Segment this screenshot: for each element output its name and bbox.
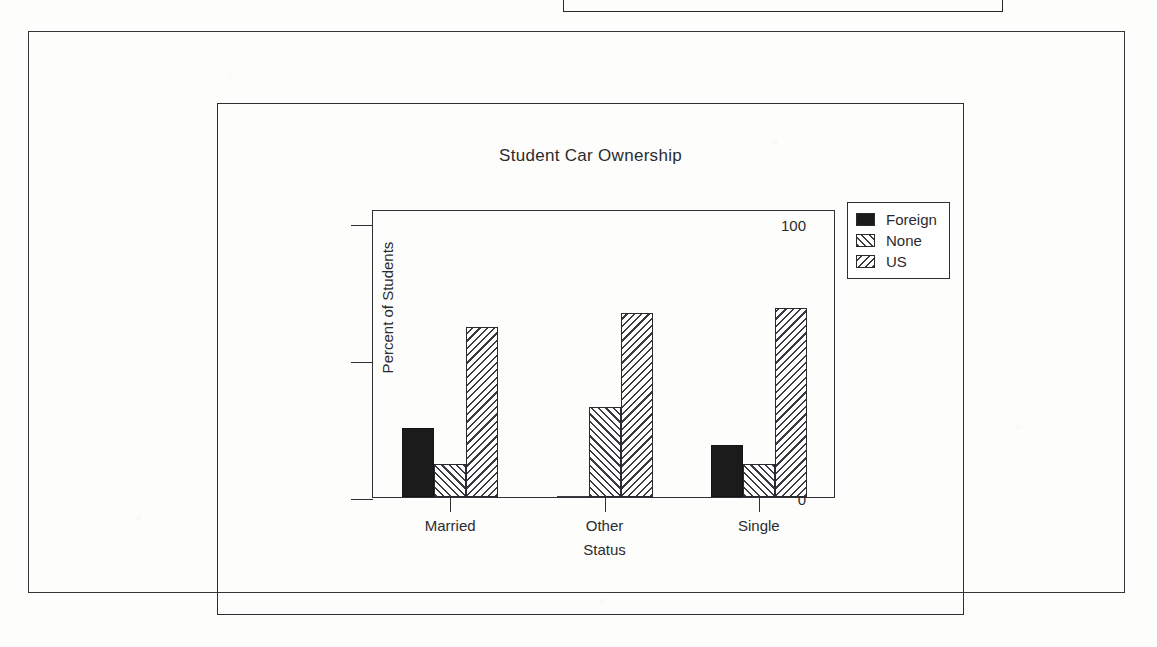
bar-married-none	[434, 464, 466, 497]
x-tick-label-married: Married	[425, 517, 476, 534]
legend-swatch-foreign-icon	[856, 213, 875, 226]
figure-frame: Student Car Ownership Percent of Student…	[217, 103, 964, 615]
y-tick-100	[351, 225, 373, 226]
y-tick-0	[351, 499, 373, 500]
legend-label-none: None	[886, 232, 922, 249]
x-tick-other	[605, 497, 606, 512]
bar-single-foreign	[711, 445, 743, 497]
outer-page-frame: Student Car Ownership Percent of Student…	[28, 31, 1125, 593]
x-tick-married	[450, 497, 451, 512]
bar-married-foreign	[402, 428, 434, 497]
legend-item-us: US	[856, 251, 937, 272]
bar-other-us	[621, 313, 653, 497]
legend-swatch-us-icon	[856, 255, 875, 268]
x-tick-single	[759, 497, 760, 512]
legend-label-foreign: Foreign	[886, 211, 937, 228]
y-axis-label: Percent of Students	[379, 208, 396, 408]
y-tick-label-100: 100	[781, 216, 806, 233]
bar-married-us	[466, 327, 498, 497]
y-tick-50	[351, 362, 373, 363]
legend-item-foreign: Foreign	[856, 209, 937, 230]
bar-single-us	[775, 308, 807, 497]
bar-other-none	[589, 407, 621, 498]
chart-title: Student Car Ownership	[218, 146, 963, 166]
x-axis-label: Status	[373, 541, 836, 558]
chart-legend: ForeignNoneUS	[847, 202, 950, 279]
legend-swatch-none-icon	[856, 234, 875, 247]
scanned-chart-page: Student Car Ownership Percent of Student…	[0, 0, 1157, 647]
plot-area: Percent of Students 050100 MarriedOtherS…	[372, 210, 835, 498]
x-tick-label-single: Single	[738, 517, 780, 534]
top-frame-fragment	[563, 0, 1003, 12]
legend-item-none: None	[856, 230, 937, 251]
legend-label-us: US	[886, 253, 907, 270]
x-tick-label-other: Other	[586, 517, 624, 534]
bar-single-none	[743, 464, 775, 497]
bar-other-foreign	[557, 496, 589, 497]
